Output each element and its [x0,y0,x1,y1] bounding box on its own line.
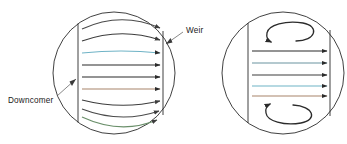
tray-flow-diagram: Downcomer Weir [0,0,347,144]
tray-outline-circle-right [222,12,344,134]
diagram-canvas: Downcomer Weir [0,0,347,144]
tray-outline-circle-left [53,12,175,134]
weir-leader-arrowhead [166,38,173,44]
downcomer-leader-arrowhead [70,79,77,86]
flow-arrow-left-7 [82,109,159,117]
recirculation-loop-bottom [266,104,312,124]
recirculation-zone-top [267,22,314,42]
downcomer-annotation: Downcomer [8,79,76,105]
weir-annotation: Weir [166,26,204,44]
flow-arrow-left-6 [82,100,160,105]
flow-arrow-group-right [252,51,327,96]
flow-arrow-group-left [82,20,160,127]
flow-arrow-left-0 [82,20,160,29]
flow-arrow-left-2 [82,51,160,53]
weir-label: Weir [186,26,204,35]
right-tray-panel [222,12,344,134]
recirculation-loop-top [267,22,314,42]
downcomer-label: Downcomer [8,96,54,105]
flow-arrow-left-1 [82,34,160,41]
left-tray-panel: Downcomer Weir [8,12,204,134]
recirculation-zone-bottom [266,104,312,124]
